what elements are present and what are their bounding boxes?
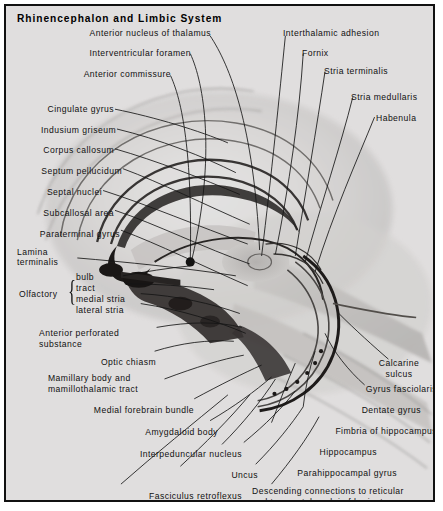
label-calcarine-sulcus-line2: sulcus — [361, 369, 435, 380]
label-dentate-gyrus: Dentate gyrus — [237, 405, 421, 416]
label-indusium-griseum: Indusium griseum — [6, 125, 116, 136]
label-anterior-perforated-substance-line1: Anterior perforated — [39, 328, 119, 339]
plate-title: Rhinencephalon and Limbic System — [17, 13, 222, 24]
label-calcarine-sulcus-line1: Calcarine — [361, 358, 435, 369]
label-fornix: Fornix — [302, 48, 329, 59]
label-subcallosal-area: Subcallosal area — [6, 208, 114, 219]
label-interthalamic-adhesion: Interthalamic adhesion — [283, 28, 379, 39]
label-olfactory-medial-stria: medial stria — [76, 294, 125, 305]
label-descending-connections-line1: Descending connections to reticular — [252, 486, 404, 497]
label-anterior-perforated-substance-line2: substance — [39, 339, 82, 350]
label-amygdaloid-body: Amygdaloid body — [6, 427, 218, 438]
label-mamillary-body-line2: mamillothalamic tract — [48, 384, 138, 395]
label-optic-chiasm: Optic chiasm — [6, 357, 156, 368]
label-cingulate-gyrus: Cingulate gyrus — [6, 104, 114, 115]
label-interventricular-foramen: Interventricular foramen — [6, 48, 191, 59]
label-stria-medullaris: Stria medullaris — [351, 92, 417, 103]
label-corpus-callosum: Corpus callosum — [6, 145, 114, 156]
label-gyrus-fasciolaris: Gyrus fasciolaris — [237, 384, 435, 395]
label-fimbria-of-hippocampus: Fimbria of hippocampus — [237, 426, 435, 437]
label-olfactory-bulb: bulb — [76, 272, 94, 283]
label-anterior-commissure: Anterior commissure — [6, 69, 171, 80]
label-fasciculus-retroflexus: Fasciculus retroflexus — [6, 491, 242, 502]
label-olfactory: Olfactory — [19, 289, 57, 300]
label-septum-pellucidum: Septum pellucidum — [6, 166, 122, 177]
label-lamina-terminalis-line1: Lamina — [17, 247, 48, 258]
label-mamillary-body-line1: Mamillary body and — [48, 373, 131, 384]
plate-frame: Rhinencephalon and Limbic System Anterio… — [4, 4, 435, 502]
olfactory-brace: { — [68, 275, 76, 305]
label-descending-connections-line2: and tegmental nuclei of brainstem — [252, 497, 396, 502]
label-septal-nuclei: Septal nuclei — [6, 187, 102, 198]
label-olfactory-tract: tract — [76, 283, 95, 294]
label-habenula: Habenula — [376, 113, 416, 124]
label-olfactory-lateral-stria: lateral stria — [76, 305, 124, 316]
label-anterior-nucleus-of-thalamus: Anterior nucleus of thalamus — [6, 28, 211, 39]
anatomy-plate: Rhinencephalon and Limbic System Anterio… — [0, 0, 443, 511]
label-medial-forebrain-bundle: Medial forebrain bundle — [6, 405, 194, 416]
label-paraterminal-gyrus: Paraterminal gyrus — [6, 229, 120, 240]
label-lamina-terminalis-line2: terminalis — [17, 257, 58, 268]
label-parahippocampal-gyrus: Parahippocampal gyrus — [167, 468, 397, 479]
label-stria-terminalis: Stria terminalis — [324, 66, 388, 77]
label-hippocampus: Hippocampus — [197, 447, 377, 458]
